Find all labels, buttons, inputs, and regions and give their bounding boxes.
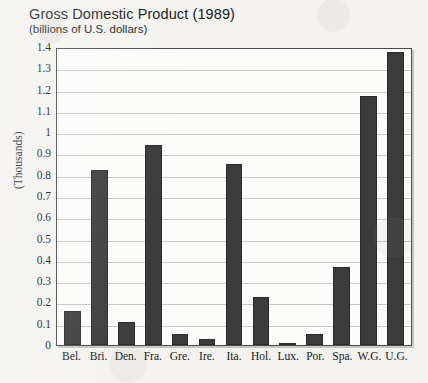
bar-slot [301,49,328,345]
bar-slot [274,49,301,345]
x-tick-label: U.G. [383,350,410,362]
bar [64,311,81,345]
y-tick-label: 0.6 [17,212,51,224]
x-tick-label: W.G. [356,350,383,362]
bar [226,164,243,345]
x-tick-label: Ita. [220,350,247,362]
y-tick-label: 0.9 [17,148,51,160]
y-tick-label: 0.5 [17,234,51,246]
y-tick-label: 0.7 [17,191,51,203]
bar [279,343,296,345]
bar [306,334,323,345]
bar-slot [86,49,113,345]
bar [387,52,404,345]
y-tick-label: 1 [17,127,51,139]
bar-slot [221,49,248,345]
bar [360,96,377,345]
x-tick-label: Bri. [85,350,112,362]
bar [199,339,216,345]
chart-title: Gross Domestic Product (1989) [29,6,409,22]
bar-slot [59,49,86,345]
x-tick-label: Fra. [139,350,166,362]
bar-slot [140,49,167,345]
bar-slot [247,49,274,345]
bar [253,297,270,345]
x-axis-tick-labels: Bel.Bri.Den.Fra.Gre.Ire.Ita.Hol.Lux.Por.… [56,350,412,362]
y-tick-label: 0.8 [17,170,51,182]
x-tick-label: Bel. [58,350,85,362]
plot-area [56,48,412,346]
bar [333,267,350,345]
bar-slot [355,49,382,345]
y-tick-label: 1.1 [17,106,51,118]
x-tick-label: Lux. [275,350,302,362]
bar [145,145,162,345]
bar-slot [113,49,140,345]
bar-slot [382,49,409,345]
bar [172,334,189,345]
bar-series [57,49,411,345]
x-tick-label: Spa. [329,350,356,362]
x-tick-label: Hol. [248,350,275,362]
y-tick-label: 0.2 [17,297,51,309]
y-axis-tick-labels: 1.41.31.21.110.90.80.70.60.50.40.30.20.1… [17,0,51,383]
x-tick-label: Por. [302,350,329,362]
bar [118,322,135,345]
y-tick-label: 0.1 [17,319,51,331]
title-block: Gross Domestic Product (1989) (billions … [29,6,409,35]
y-tick-label: 1.3 [17,63,51,75]
y-tick-label: 0.4 [17,255,51,267]
y-tick-label: 1.4 [17,42,51,54]
bar-slot [167,49,194,345]
x-tick-label: Ire. [193,350,220,362]
x-tick-label: Den. [112,350,139,362]
bar [91,170,108,345]
y-tick-label: 1.2 [17,85,51,97]
x-tick-label: Gre. [166,350,193,362]
y-tick-label: 0.3 [17,276,51,288]
bar-slot [328,49,355,345]
gdp-bar-chart: Gross Domestic Product (1989) (billions … [0,0,428,383]
y-tick-label: 0 [17,340,51,352]
bar-slot [194,49,221,345]
chart-subtitle: (billions of U.S. dollars) [29,23,409,35]
